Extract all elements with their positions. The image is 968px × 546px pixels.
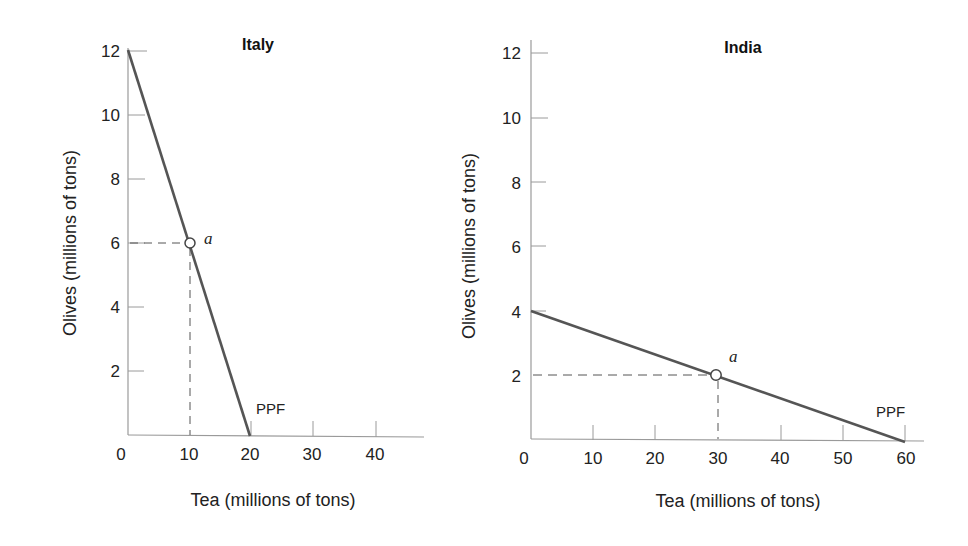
italy-ppf-label: PPF <box>256 400 285 417</box>
india-point-a <box>711 370 721 380</box>
india-x-ticks <box>593 425 905 441</box>
italy-y-axis-title: Olives (millions of tons) <box>60 150 80 336</box>
italy-x-ticks <box>251 421 376 437</box>
india-x-axis <box>531 439 924 441</box>
india-xtick-30: 30 <box>709 449 728 468</box>
india-point-a-label: a <box>729 347 738 366</box>
italy-xtick-0: 0 <box>116 445 125 464</box>
italy-x-axis-title: Tea (millions of tons) <box>190 490 355 510</box>
italy-ytick-4: 4 <box>111 298 120 317</box>
italy-chart: 12 10 8 6 4 2 0 10 20 30 40 a PPF Italy … <box>60 36 424 510</box>
india-ppf-label: PPF <box>876 403 905 420</box>
india-xtick-0: 0 <box>519 449 528 468</box>
italy-xtick-10: 10 <box>180 445 199 464</box>
italy-ytick-6: 6 <box>111 234 120 253</box>
india-ytick-10: 10 <box>502 109 521 128</box>
italy-point-a <box>185 238 195 248</box>
italy-x-axis <box>128 435 424 437</box>
italy-title: Italy <box>242 36 274 53</box>
italy-xtick-40: 40 <box>366 445 385 464</box>
india-xtick-40: 40 <box>771 449 790 468</box>
india-chart: 12 10 8 6 4 2 0 10 20 30 40 50 60 a PPF … <box>459 39 924 511</box>
italy-point-a-label: a <box>204 229 213 248</box>
italy-xtick-20: 20 <box>241 445 260 464</box>
india-ytick-8: 8 <box>512 174 521 193</box>
italy-ytick-10: 10 <box>101 106 120 125</box>
india-ytick-6: 6 <box>512 238 521 257</box>
india-x-axis-title: Tea (millions of tons) <box>655 491 820 511</box>
italy-xtick-30: 30 <box>303 445 322 464</box>
india-xtick-10: 10 <box>584 449 603 468</box>
india-xtick-50: 50 <box>834 449 853 468</box>
india-xtick-60: 60 <box>897 449 916 468</box>
india-y-ticks <box>531 53 548 311</box>
india-title: India <box>724 39 761 56</box>
india-ytick-2: 2 <box>512 367 521 386</box>
italy-ytick-8: 8 <box>111 170 120 189</box>
india-ytick-4: 4 <box>512 303 521 322</box>
india-ytick-12: 12 <box>502 44 521 63</box>
india-y-axis-title: Olives (millions of tons) <box>459 153 479 339</box>
italy-ytick-2: 2 <box>111 362 120 381</box>
italy-ytick-12: 12 <box>101 42 120 61</box>
figure: 12 10 8 6 4 2 0 10 20 30 40 a PPF Italy … <box>0 0 968 546</box>
india-xtick-20: 20 <box>646 449 665 468</box>
